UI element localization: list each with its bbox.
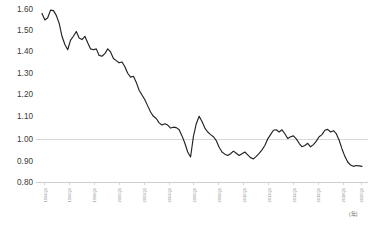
ytick-label-0.90: 0.90 [17,157,33,166]
xtick-label-6: 2006Q1 [192,187,197,202]
y-axis-tick-labels: 1.60 1.50 1.40 1.30 1.20 1.10 1.00 0.90 … [17,5,33,188]
ytick-label-1.20: 1.20 [17,90,33,99]
xtick-label-13: 2020Q1 [359,187,364,202]
xtick-label-9: 2012Q1 [267,187,272,202]
xtick-label-5: 2004Q1 [167,187,172,202]
ytick-label-1.10: 1.10 [17,112,33,121]
ytick-label-1.30: 1.30 [17,69,33,78]
xtick-label-2: 1998Q1 [92,187,97,202]
line-chart-figure: 1.60 1.50 1.40 1.30 1.20 1.10 1.00 0.90 … [0,0,376,234]
x-axis-unit-label: (年) [349,210,358,218]
xtick-label-3: 2000Q1 [117,187,122,202]
chart-canvas: 1.60 1.50 1.40 1.30 1.20 1.10 1.00 0.90 … [0,0,376,234]
xtick-label-11: 2016Q1 [316,187,321,202]
ytick-label-1.50: 1.50 [17,26,33,35]
xtick-label-12: 2018Q1 [341,187,346,202]
xtick-label-4: 2002Q1 [142,187,147,202]
ytick-label-1.60: 1.60 [17,5,33,14]
ytick-label-1.40: 1.40 [17,47,33,56]
xtick-label-7: 2008Q1 [217,187,222,202]
xtick-label-8: 2010Q1 [242,187,247,202]
ytick-label-1.00: 1.00 [17,135,33,144]
xtick-label-10: 2014Q1 [292,187,297,202]
xtick-label-1: 1996Q1 [67,187,72,202]
ytick-label-0.80: 0.80 [17,178,33,187]
xtick-label-0: 1994Q1 [43,187,48,202]
